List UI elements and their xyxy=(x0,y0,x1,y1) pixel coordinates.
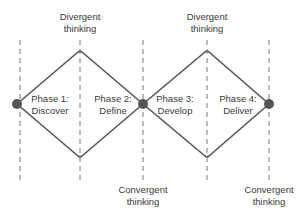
diamond-2 xyxy=(143,51,269,157)
divergent-label-1-line1: Divergent xyxy=(60,11,101,22)
convergent-label-2-line2: thinking xyxy=(253,196,286,207)
divergent-label-2-line1: Divergent xyxy=(187,11,228,22)
double-diamond-diagram: Divergent thinking Divergent thinking Ph… xyxy=(0,0,301,213)
phase-1-name: Discover xyxy=(32,105,69,116)
divergent-label-1-line2: thinking xyxy=(64,23,97,34)
start-node xyxy=(12,99,22,109)
phase-2-name: Define xyxy=(99,105,126,116)
divergent-label-2-line2: thinking xyxy=(191,23,224,34)
phase-3-name: Develop xyxy=(158,105,193,116)
phase-1-number: Phase 1: xyxy=(31,93,69,104)
phase-4-number: Phase 4: xyxy=(219,93,257,104)
phase-4-name: Deliver xyxy=(223,105,253,116)
phase-2-number: Phase 2: xyxy=(94,93,132,104)
middle-node xyxy=(138,99,148,109)
convergent-label-1-line2: thinking xyxy=(127,196,160,207)
convergent-label-2-line1: Convergent xyxy=(244,184,293,195)
phase-3-number: Phase 3: xyxy=(156,93,194,104)
end-node xyxy=(264,99,274,109)
convergent-label-1-line1: Convergent xyxy=(118,184,167,195)
